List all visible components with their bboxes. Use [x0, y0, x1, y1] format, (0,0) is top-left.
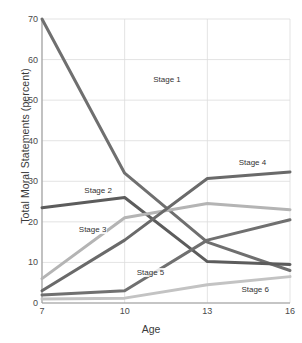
x-tick-label: 7 [39, 306, 44, 316]
series-label-stage-3: Stage 3 [78, 225, 108, 234]
y-tick-label: 0 [16, 298, 38, 308]
y-axis-title: Total Moral Statements (percent) [19, 36, 31, 256]
series-label-stage-6: Stage 6 [240, 285, 270, 294]
series-label-stage-1: Stage 1 [152, 75, 182, 84]
line-chart: 010203040506070 7101316 Stage 1Stage 2St… [0, 0, 302, 343]
series-label-stage-2: Stage 2 [83, 186, 113, 195]
x-tick-label: 10 [120, 306, 130, 316]
x-axis-title: Age [0, 323, 302, 335]
x-tick-label: 13 [202, 306, 212, 316]
series-label-stage-5: Stage 5 [136, 268, 166, 277]
y-tick-label: 10 [16, 257, 38, 267]
series-label-stage-4: Stage 4 [238, 158, 268, 167]
y-tick-label: 70 [16, 14, 38, 24]
x-tick-label: 16 [285, 306, 295, 316]
